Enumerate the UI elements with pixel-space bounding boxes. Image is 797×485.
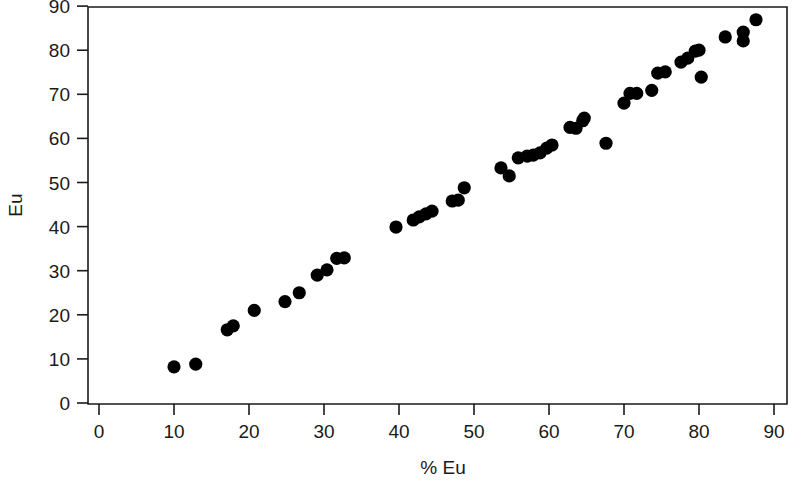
data-point: [338, 251, 351, 264]
data-point: [167, 360, 180, 373]
x-tick-label: 10: [163, 421, 184, 442]
y-tick-label: 40: [49, 217, 70, 238]
x-tick-label: 50: [463, 421, 484, 442]
y-tick-label: 80: [49, 40, 70, 61]
y-tick-label: 0: [59, 393, 70, 414]
x-tick-label: 90: [763, 421, 784, 442]
data-point: [458, 181, 471, 194]
x-axis-title: % Eu: [420, 457, 465, 478]
x-tick-label: 30: [313, 421, 334, 442]
data-point: [578, 112, 591, 125]
data-point: [293, 286, 306, 299]
y-tick-label: 20: [49, 305, 70, 326]
data-point: [749, 13, 762, 26]
x-tick-label: 80: [688, 421, 709, 442]
data-point: [630, 87, 643, 100]
y-tick-label: 50: [49, 173, 70, 194]
y-tick-label: 10: [49, 349, 70, 370]
data-point: [645, 84, 658, 97]
y-axis-title: Eu: [5, 193, 26, 216]
data-point: [719, 30, 732, 43]
data-point: [545, 138, 558, 151]
x-tick-label: 70: [613, 421, 634, 442]
data-point: [227, 319, 240, 332]
data-point: [692, 44, 705, 57]
x-tick-label: 20: [238, 421, 259, 442]
data-point: [189, 358, 202, 371]
data-point: [425, 205, 438, 218]
plot-canvas: 0102030405060708090 0102030405060708090 …: [0, 0, 797, 485]
data-point: [452, 194, 465, 207]
scatter-plot-figure: 0102030405060708090 0102030405060708090 …: [0, 0, 797, 485]
data-point: [737, 34, 750, 47]
x-tick-label: 0: [94, 421, 105, 442]
data-point: [503, 169, 516, 182]
data-point: [278, 295, 291, 308]
y-tick-label: 30: [49, 261, 70, 282]
y-tick-label: 60: [49, 128, 70, 149]
data-point: [389, 220, 402, 233]
data-point: [320, 263, 333, 276]
y-tick-label: 90: [49, 0, 70, 17]
data-point: [599, 137, 612, 150]
x-tick-label: 40: [388, 421, 409, 442]
data-point: [248, 304, 261, 317]
data-point: [659, 65, 672, 78]
data-point: [695, 71, 708, 84]
y-tick-label: 70: [49, 84, 70, 105]
x-tick-label: 60: [538, 421, 559, 442]
